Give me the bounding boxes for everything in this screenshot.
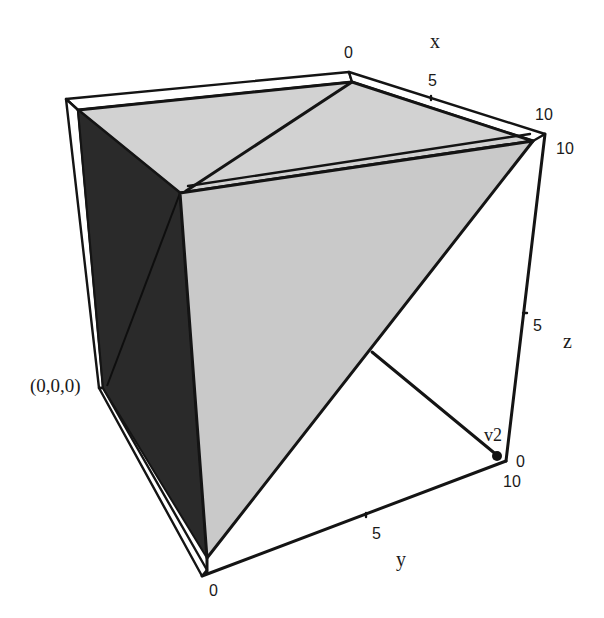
figure-canvas: 0 5 10 10 5 0 10 5 0 x z y (0,0,0) v2 [0, 0, 604, 618]
z-axis-label: z [563, 330, 572, 352]
z-tick-label-10: 10 [556, 140, 574, 157]
y-tick-label-0: 0 [209, 582, 218, 599]
x-axis-label: x [430, 30, 440, 52]
box-edge-right-vertical [506, 134, 545, 461]
z-tick-label-5: 5 [533, 317, 542, 334]
solid-front-face [180, 141, 533, 558]
z-tick-label-0: 0 [516, 453, 525, 470]
y-axis-label: y [396, 548, 406, 571]
y-tick-label-10: 10 [503, 473, 521, 490]
plot-svg: 0 5 10 10 5 0 10 5 0 x z y (0,0,0) v2 [0, 0, 604, 618]
x-tick-label-10: 10 [535, 106, 553, 123]
box-edge-bottom-back [372, 352, 498, 456]
origin-label: (0,0,0) [30, 375, 81, 397]
x-tick-label-0: 0 [344, 44, 353, 61]
x-tick-label-5: 5 [428, 72, 437, 89]
vertex-v2-point [492, 451, 502, 461]
y-tick-label-5: 5 [372, 525, 381, 542]
vertex-v2-label: v2 [484, 425, 502, 445]
